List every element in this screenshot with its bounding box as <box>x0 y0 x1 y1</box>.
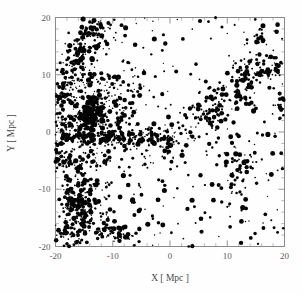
x-tick-label: 10 <box>223 251 233 261</box>
plot-canvas: Y [ Mpc ] X [ Mpc ] -20-1001020 -20-1001… <box>0 0 302 294</box>
y-tick-label: 0 <box>46 127 51 137</box>
x-tick-label: -10 <box>107 251 119 261</box>
x-tick-label: 20 <box>280 251 290 261</box>
y-tick-label: 10 <box>42 70 52 80</box>
x-tick-label: -20 <box>50 251 62 261</box>
y-tick-labels: -20-1001020 <box>39 13 52 252</box>
y-tick-label: 20 <box>42 13 52 23</box>
scatter-plot-figure: Y [ Mpc ] X [ Mpc ] -20-1001020 -20-1001… <box>0 0 302 294</box>
data-points <box>54 16 286 248</box>
y-axis-label: Y [ Mpc ] <box>6 114 16 151</box>
y-tick-label: -20 <box>39 242 51 252</box>
x-tick-labels: -20-1001020 <box>50 251 290 261</box>
x-axis-label: X [ Mpc ] <box>151 273 189 283</box>
x-tick-label: 0 <box>168 251 173 261</box>
y-tick-label: -10 <box>39 184 51 194</box>
